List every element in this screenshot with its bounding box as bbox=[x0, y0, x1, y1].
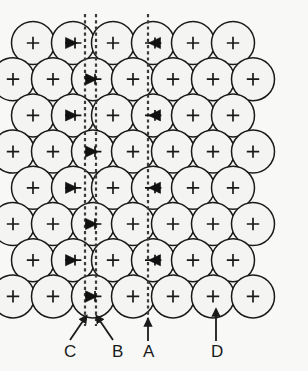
label-b: B bbox=[112, 342, 123, 361]
label-d: D bbox=[211, 342, 223, 361]
label-c: C bbox=[64, 342, 76, 361]
lattice-diagram-figure: CBAD bbox=[0, 0, 308, 371]
label-a: A bbox=[143, 342, 155, 361]
lattice-svg-canvas: CBAD bbox=[0, 0, 308, 371]
